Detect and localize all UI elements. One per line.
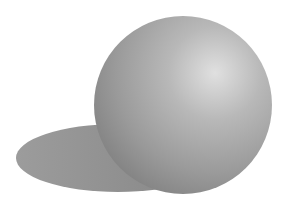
sphere — [94, 16, 272, 194]
sphere-scene — [0, 0, 287, 209]
